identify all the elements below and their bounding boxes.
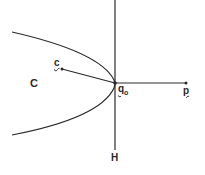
point-q0-dot <box>113 81 117 85</box>
convex-set-boundary <box>12 32 115 135</box>
point-c-label: c <box>54 58 60 68</box>
region-label-c: C <box>30 78 38 89</box>
line-h-label: H <box>111 153 118 163</box>
vertex-q0-label: qo <box>118 84 128 96</box>
diagram-canvas: C c qo p H <box>0 0 205 175</box>
point-c-dot <box>61 68 64 71</box>
vertex-subscript: o <box>124 89 128 96</box>
point-p-label: p <box>183 86 189 96</box>
